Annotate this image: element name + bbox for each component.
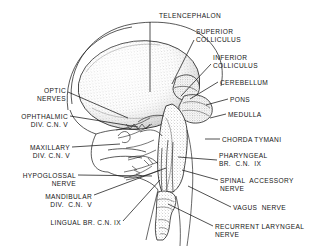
label-chorda-tymani: CHORDA TYMANI (222, 136, 302, 144)
hypoglossal-leader (78, 175, 152, 176)
label-hypoglossal-nerve: HYPOGLOSSAL NERVE (8, 172, 76, 187)
anatomical-figure: TELENCEPHALONSUPERIOR COLLICULUSINFERIOR… (0, 0, 333, 248)
label-pons: PONS (230, 96, 270, 104)
medulla-leader (210, 114, 226, 118)
face-jaw-contour (91, 129, 158, 190)
label-optic-nerves: OPTIC NERVES (14, 87, 66, 102)
label-maxillary-div-cn-v: MAXILLARY DIV. C.N. V (10, 144, 70, 159)
label-mandibular-div-cn-v: MANDIBULAR DIV. C.N. V (24, 193, 92, 208)
label-pharyngeal-br-cn-ix: PHARYNGEAL BR. C.N. IX (219, 152, 299, 167)
maxillary-leader (72, 144, 120, 147)
label-cerebellum: CEREBELLUM (220, 79, 290, 87)
recurrent-laryngeal-leader (168, 204, 213, 226)
spinal-accessory-leader (182, 170, 218, 180)
label-ophthalmic-div-cn-v: OPHTHALMIC DIV. C.N. V (5, 113, 68, 128)
label-telencephalon: TELENCEPHALON (150, 12, 230, 20)
lingual-leader (123, 180, 160, 221)
label-superior-colliculus: SUPERIOR COLLICULUS (196, 28, 266, 43)
label-inferior-colliculus: INFERIOR COLLICULUS (213, 54, 283, 69)
label-spinal-accessory: SPINAL ACCESSORY NERVE (220, 177, 318, 192)
larynx-trachea (155, 191, 175, 240)
label-vagus-nerve: VAGUS NERVE (233, 204, 303, 212)
label-medulla: MEDULLA (228, 111, 278, 119)
label-recurrent-laryngeal: RECURRENT LARYNGEAL NERVE (215, 223, 327, 238)
label-lingual-br-cn-ix: LINGUAL BR. C.N. IX (33, 219, 121, 227)
